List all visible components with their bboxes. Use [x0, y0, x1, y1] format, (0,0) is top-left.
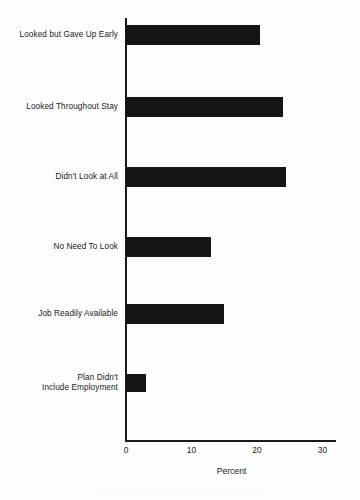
x-tick-label: 10: [180, 445, 204, 455]
chart-page: Looked but Gave Up Early Looked Througho…: [0, 0, 360, 500]
bar-rect: [126, 237, 211, 257]
x-axis-title: Percent: [126, 466, 337, 476]
bar-label: Plan Didn't Include Employment: [0, 373, 118, 394]
bar-label: Didn't Look at All: [0, 172, 118, 182]
bar-row: Didn't Look at All: [0, 167, 360, 187]
bar-label: No Need To Look: [0, 242, 118, 252]
x-tick-label: 30: [311, 445, 335, 455]
bar-rect: [126, 97, 283, 117]
bar-row: Job Readily Available: [0, 304, 360, 324]
bar-rect: [126, 25, 260, 45]
bar-row: No Need To Look: [0, 237, 360, 257]
bar-chart-plot-area: Looked but Gave Up Early Looked Througho…: [0, 0, 360, 500]
bar-row: Looked but Gave Up Early: [0, 25, 360, 45]
bar-rect: [126, 167, 286, 187]
bar-label: Looked but Gave Up Early: [0, 30, 118, 40]
x-tick-label: 0: [114, 445, 138, 455]
bar-label-line-1: Plan Didn't: [0, 373, 118, 383]
x-tick-label: 20: [245, 445, 269, 455]
bar-rect: [126, 304, 224, 324]
bar-label: Looked Throughout Stay: [0, 102, 118, 112]
bar-label-line-2: Include Employment: [0, 383, 118, 393]
x-axis-line: [125, 440, 336, 442]
scan-artifact: [95, 488, 265, 494]
bar-row: Plan Didn't Include Employment: [0, 374, 360, 394]
bar-row: Looked Throughout Stay: [0, 97, 360, 117]
bar-rect: [126, 374, 146, 392]
bar-label: Job Readily Available: [0, 309, 118, 319]
